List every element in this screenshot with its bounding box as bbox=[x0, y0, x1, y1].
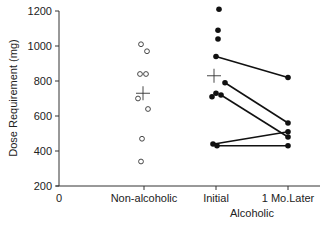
alcoholic-later-point bbox=[285, 129, 291, 135]
alcoholic-initial-point bbox=[209, 94, 215, 100]
non-alcoholic-point bbox=[144, 72, 149, 77]
non-alcoholic-point bbox=[136, 96, 141, 101]
alcoholic-initial-point bbox=[215, 27, 221, 33]
non-alcoholic-point bbox=[139, 42, 144, 47]
paired-change-line bbox=[214, 132, 288, 144]
y-tick-label: 200 bbox=[34, 180, 52, 192]
alcoholic-initial-point bbox=[215, 36, 221, 42]
y-tick-label: 1000 bbox=[28, 40, 52, 52]
alcoholic-initial-point bbox=[213, 54, 219, 60]
non-alcoholic-point bbox=[140, 136, 145, 141]
alcoholic-initial-point bbox=[222, 80, 228, 86]
paired-change-line bbox=[216, 57, 288, 78]
non-alcoholic-point bbox=[139, 159, 144, 164]
x-tick-label: 1 Mo.Later bbox=[262, 192, 315, 204]
alcoholic-later-point bbox=[285, 143, 291, 149]
y-tick-label: 1200 bbox=[28, 5, 52, 17]
y-tick-label: 800 bbox=[34, 75, 52, 87]
alcoholic-later-point bbox=[285, 120, 291, 126]
non-alcoholic-point bbox=[138, 72, 143, 77]
non-alcoholic-point bbox=[145, 49, 150, 54]
non-alcoholic-point bbox=[146, 107, 151, 112]
dose-scatter-chart: 200400600800100012000Non-alcoholicInitia… bbox=[0, 0, 324, 226]
alcoholic-initial-point bbox=[214, 143, 220, 149]
x-tick-label: 0 bbox=[56, 192, 62, 204]
alcoholic-initial-point bbox=[216, 6, 222, 12]
alcoholic-initial-point bbox=[218, 92, 224, 98]
x-tick-label: Initial bbox=[203, 192, 229, 204]
x-tick-label: Non-alcoholic bbox=[111, 192, 178, 204]
x-axis-title: Alcoholic bbox=[230, 207, 275, 219]
alcoholic-later-point bbox=[285, 134, 291, 140]
y-tick-label: 600 bbox=[34, 110, 52, 122]
y-tick-label: 400 bbox=[34, 145, 52, 157]
alcoholic-later-point bbox=[285, 75, 291, 81]
y-axis-title: Dose Requirement (mg) bbox=[7, 39, 19, 156]
